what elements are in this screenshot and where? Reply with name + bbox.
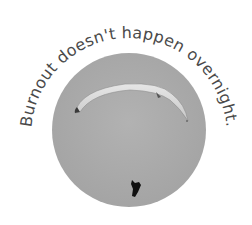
burnout-badge: Burnout doesn't happen overnight. (0, 0, 252, 225)
sky-circle (52, 53, 206, 207)
badge-graphic: Burnout doesn't happen overnight. (0, 0, 252, 225)
circular-photo (52, 53, 206, 207)
